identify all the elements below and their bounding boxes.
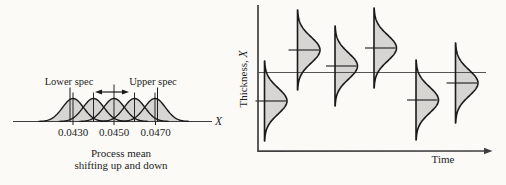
x-axis-variable-label: X	[214, 115, 223, 127]
shift-arrowhead-left	[95, 89, 102, 94]
shift-arrowhead-right	[122, 89, 129, 94]
figure-canvas: Lower spec Upper spec X 0.0430 0.0450 0.…	[0, 0, 506, 185]
lower-spec-label: Lower spec	[45, 76, 94, 87]
tick-label-0450: 0.0450	[99, 126, 130, 138]
right-chart-geometry	[256, 5, 493, 154]
left-chart-geometry	[13, 85, 212, 126]
y-axis-label: Thickness, X	[237, 49, 249, 107]
time-axis-arrowhead	[484, 148, 493, 154]
time-axis-label: Time	[432, 153, 455, 165]
tick-label-0430: 0.0430	[58, 126, 89, 138]
left-chart-labels: Lower spec Upper spec X 0.0430 0.0450 0.…	[45, 76, 223, 171]
caption-line-2: shifting up and down	[74, 159, 168, 171]
caption-line-1: Process mean	[91, 147, 152, 159]
y-axis-variable: X	[237, 49, 249, 58]
upper-spec-label: Upper spec	[129, 76, 177, 87]
y-axis-label-word: Thickness,	[237, 57, 249, 107]
scanned-figure-page: Lower spec Upper spec X 0.0430 0.0450 0.…	[0, 0, 506, 185]
tick-label-0470: 0.0470	[140, 126, 171, 138]
